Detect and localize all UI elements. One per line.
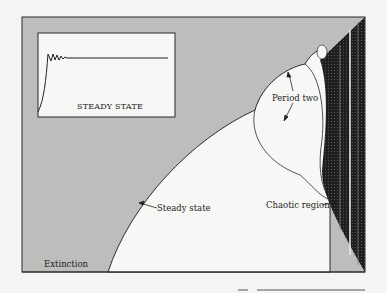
bifurcation-diagram bbox=[0, 0, 387, 293]
inset-title: STEADY STATE bbox=[77, 102, 143, 111]
label-chaotic-region: Chaotic region bbox=[266, 200, 330, 210]
label-period-two: Period two bbox=[272, 93, 318, 103]
label-steady-state: Steady state bbox=[157, 203, 211, 213]
label-extinction: Extinction bbox=[44, 259, 88, 269]
